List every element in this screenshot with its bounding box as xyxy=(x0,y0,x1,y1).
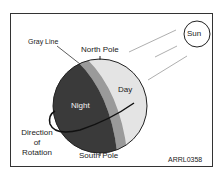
figure-id-label: ARRL0358 xyxy=(168,156,202,163)
south-pole-label: South Pole xyxy=(79,152,118,160)
direction-line-1: Direction xyxy=(17,128,57,138)
sun-ray xyxy=(155,46,177,57)
day-label: Day xyxy=(118,86,132,94)
gray-line-label: Gray Line xyxy=(28,38,58,45)
gray-line-leader xyxy=(57,46,80,64)
sun-ray xyxy=(129,30,176,52)
direction-line-3: Rotation xyxy=(17,148,57,158)
night-label: Night xyxy=(71,102,90,110)
sun-label: Sun xyxy=(187,30,201,38)
direction-line-2: of xyxy=(17,138,57,148)
north-pole-label: North Pole xyxy=(81,46,119,54)
sun-ray xyxy=(148,56,187,80)
direction-of-rotation-label: Direction of Rotation xyxy=(17,128,57,158)
